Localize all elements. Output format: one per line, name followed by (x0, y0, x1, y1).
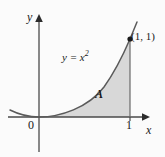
figure-container: y x 0 1 y = x2 A (1, 1) (0, 0, 165, 157)
parabola-area-diagram (0, 0, 165, 157)
point-coordinates-label: (1, 1) (131, 31, 155, 42)
curve-equation-base: y = x (62, 51, 85, 63)
origin-label: 0 (28, 119, 34, 131)
region-area-label: A (95, 88, 103, 100)
x-axis-tick-label-1: 1 (126, 119, 132, 131)
x-axis-arrowhead (142, 113, 150, 121)
curve-equation-exponent: 2 (85, 49, 89, 58)
curve-equation-label: y = x2 (62, 50, 89, 63)
y-axis-arrowhead (35, 14, 43, 22)
x-axis-label: x (146, 124, 151, 136)
y-axis-label: y (27, 11, 32, 23)
